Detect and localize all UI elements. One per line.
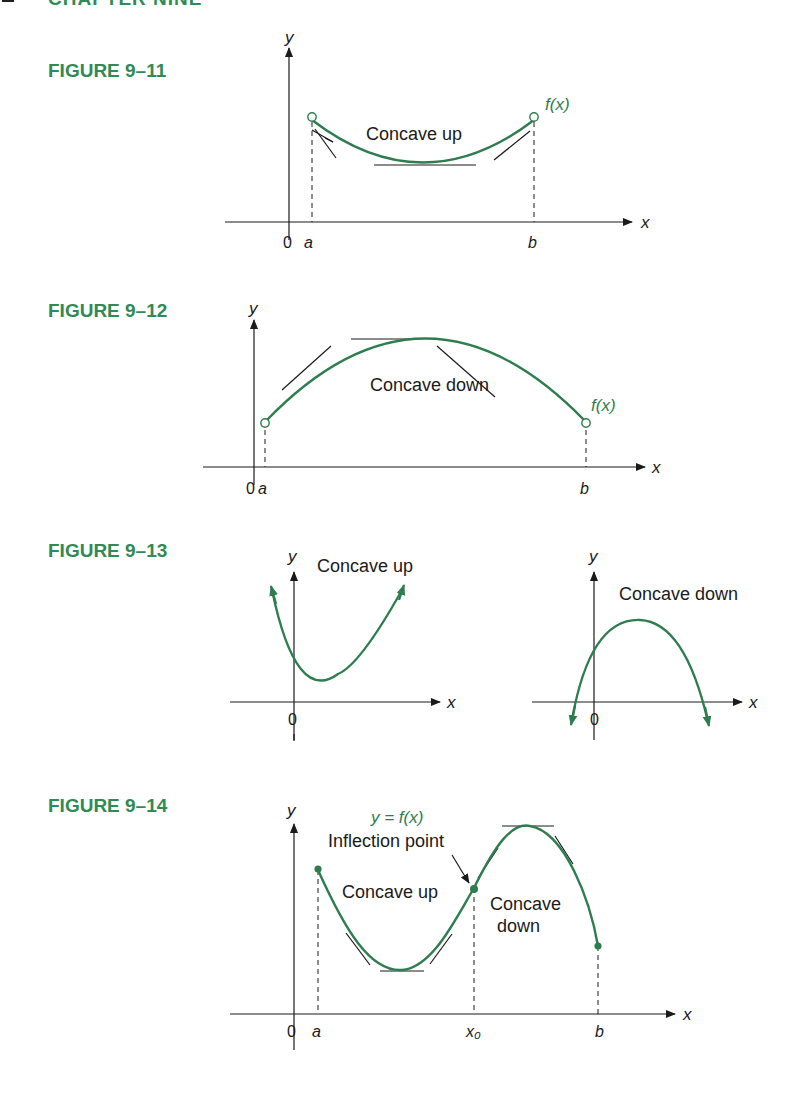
concave-down-curve: [572, 620, 708, 722]
origin-label: 0: [288, 711, 297, 728]
tangent-line: [346, 933, 370, 965]
open-endpoint-b: [582, 419, 590, 427]
inflection-arrow: [452, 855, 469, 883]
figure-9-11: y x 0 a b f(x) Concave up: [225, 28, 650, 251]
figure-9-12: y x 0 a b f(x) Concave down: [203, 299, 661, 497]
tangent-line: [430, 934, 452, 964]
figure-9-13-right: y x 0 Concave down: [532, 547, 758, 740]
x-axis-label: x: [446, 693, 456, 712]
y-axis-label: y: [287, 547, 298, 566]
tangent-line: [555, 836, 573, 864]
origin-label: 0: [287, 1023, 296, 1040]
curve-label: y = f(x): [370, 808, 423, 827]
tick-b: b: [580, 480, 589, 497]
y-axis-label: y: [284, 28, 295, 47]
inflection-label: Inflection point: [328, 831, 444, 851]
concave-up-label: Concave up: [342, 882, 438, 902]
tick-b: b: [528, 234, 537, 251]
tick-x0: x₀: [465, 1023, 481, 1040]
figure-9-13-left: y x 0 Concave up: [230, 547, 456, 741]
concave-down-label-line2: down: [497, 916, 540, 936]
tick-a: a: [258, 480, 267, 497]
curve-label: f(x): [591, 396, 616, 415]
endpoint-b: [594, 942, 601, 949]
curve-label: f(x): [545, 95, 570, 114]
region-label: Concave down: [370, 375, 489, 395]
concave-down-label-line1: Concave: [490, 894, 561, 914]
y-axis-label: y: [286, 801, 297, 820]
inflection-point: [470, 885, 478, 893]
region-label: Concave up: [317, 556, 413, 576]
x-axis-label: x: [651, 458, 661, 477]
figures-canvas: y x 0 a b f(x) Concave up y x 0 a b f(x): [0, 0, 802, 1097]
region-label: Concave up: [366, 124, 462, 144]
figure-9-14: y x 0 a x₀ b y = f(x) Inflection point C…: [230, 801, 692, 1050]
open-endpoint-b: [530, 113, 538, 121]
origin-label: 0: [283, 234, 292, 251]
endpoint-a: [314, 865, 321, 872]
open-endpoint-a: [308, 113, 316, 121]
region-label: Concave down: [619, 584, 738, 604]
x-axis-label: x: [640, 213, 650, 232]
origin-label: 0: [246, 480, 255, 497]
concave-up-curve: [272, 590, 402, 681]
tick-a: a: [304, 234, 313, 251]
y-axis-label: y: [248, 299, 259, 318]
x-axis-label: x: [748, 693, 758, 712]
tick-b: b: [595, 1023, 604, 1040]
y-axis-label: y: [588, 547, 599, 566]
open-endpoint-a: [261, 419, 269, 427]
origin-label: 0: [590, 711, 599, 728]
tick-a: a: [312, 1023, 321, 1040]
x-axis-label: x: [682, 1005, 692, 1024]
